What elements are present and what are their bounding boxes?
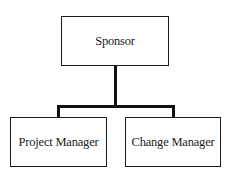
connector-right-drop (172, 105, 175, 117)
connector-left-drop (57, 105, 60, 117)
sponsor-label: Sponsor (95, 34, 135, 49)
change-manager-box: Change Manager (125, 117, 221, 167)
connector-horizontal-bar (57, 105, 175, 108)
sponsor-box: Sponsor (61, 16, 169, 66)
project-manager-box: Project Manager (10, 117, 107, 167)
change-manager-label: Change Manager (132, 135, 215, 150)
project-manager-label: Project Manager (19, 135, 99, 150)
connector-vertical-trunk (114, 66, 117, 108)
